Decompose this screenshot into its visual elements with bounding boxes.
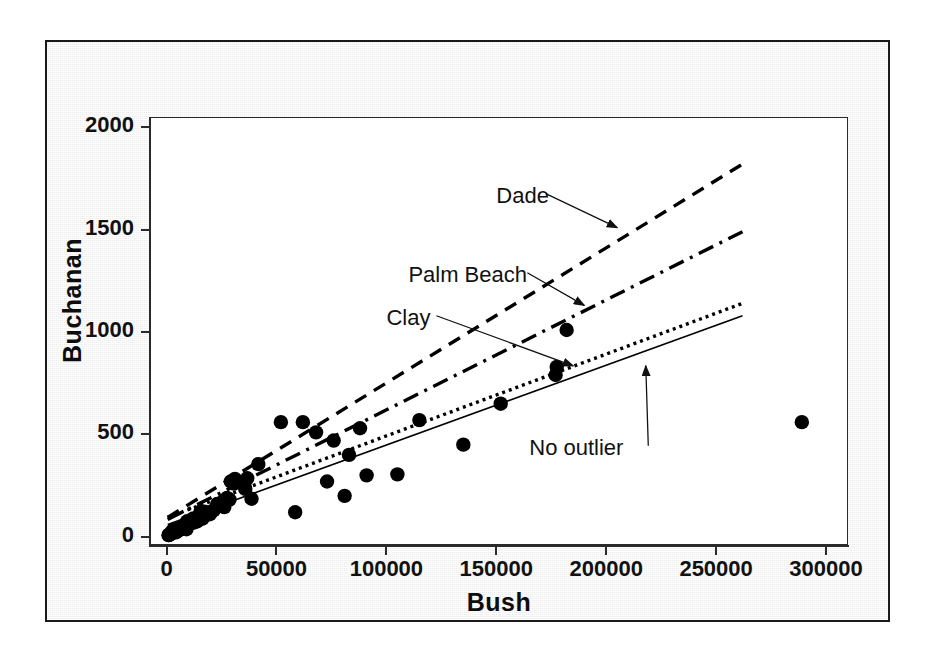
x-tick xyxy=(825,547,827,555)
x-tick xyxy=(166,547,168,555)
y-tick xyxy=(141,536,149,538)
x-tick xyxy=(495,547,497,555)
x-tick-label: 300000 xyxy=(756,556,896,582)
x-tick xyxy=(275,547,277,555)
y-tick-label: 0 xyxy=(0,522,134,548)
y-tick xyxy=(141,126,149,128)
plot-area xyxy=(149,117,848,545)
annotation-clay: Clay xyxy=(386,305,430,331)
x-tick xyxy=(715,547,717,555)
y-axis-title: Buchanan xyxy=(58,191,87,411)
x-axis-line xyxy=(149,545,849,547)
y-tick xyxy=(141,433,149,435)
x-tick xyxy=(605,547,607,555)
y-tick-label: 2000 xyxy=(0,112,134,138)
x-axis-title: Bush xyxy=(149,588,849,617)
x-tick xyxy=(385,547,387,555)
y-tick xyxy=(141,331,149,333)
annotation-no-outlier: No outlier xyxy=(529,435,623,461)
annotation-palm-beach: Palm Beach xyxy=(408,262,527,288)
annotation-dade: Dade xyxy=(496,183,549,209)
y-tick xyxy=(141,229,149,231)
y-axis-line xyxy=(149,117,151,546)
y-tick-label: 500 xyxy=(0,419,134,445)
